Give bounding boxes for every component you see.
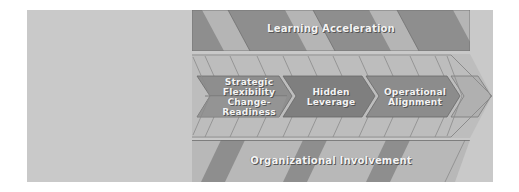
change-readiness-label: Change-Readiness (214, 97, 284, 117)
hidden-leverage-label: Hidden Leverage (300, 87, 362, 107)
operational-alignment-label: Operational Alignment (382, 87, 448, 107)
strategic-flexibility-label: Strategic Flexibility (214, 77, 284, 97)
learning-acceleration-label: Learning Acceleration (192, 24, 470, 34)
organizational-involvement-label: Organizational Involvement (192, 156, 470, 166)
